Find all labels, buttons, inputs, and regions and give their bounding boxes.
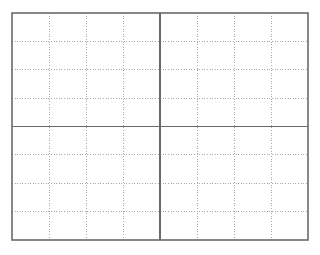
grid-sheet bbox=[0, 0, 320, 255]
grid-canvas bbox=[0, 0, 320, 255]
